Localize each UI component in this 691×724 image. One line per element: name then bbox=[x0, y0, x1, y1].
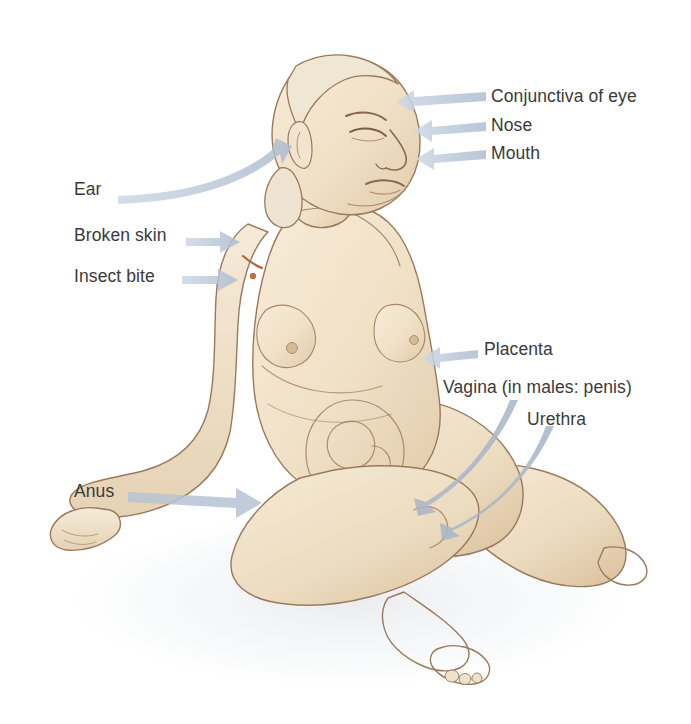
nipple-near bbox=[287, 343, 298, 354]
arrow-mouth bbox=[416, 148, 486, 170]
label-mouth: Mouth bbox=[491, 145, 540, 163]
nipple-far bbox=[410, 336, 419, 345]
label-insect-bite: Insect bite bbox=[74, 268, 155, 286]
label-conjunctiva-of-eye: Conjunctiva of eye bbox=[491, 88, 637, 106]
label-broken-skin: Broken skin bbox=[74, 227, 167, 245]
figure-illustration bbox=[0, 0, 691, 724]
label-urethra: Urethra bbox=[527, 411, 586, 429]
label-placenta: Placenta bbox=[484, 341, 553, 359]
anatomy-diagram: Conjunctiva of eye Nose Mouth Placenta V… bbox=[0, 0, 691, 724]
insect-bite-mark bbox=[250, 273, 256, 279]
label-nose: Nose bbox=[491, 117, 532, 135]
arrow-conjunctiva bbox=[396, 90, 486, 113]
arrow-nose bbox=[414, 120, 486, 142]
label-ear: Ear bbox=[74, 181, 102, 199]
label-anus: Anus bbox=[74, 483, 114, 501]
label-vagina: Vagina (in males: penis) bbox=[443, 379, 632, 397]
